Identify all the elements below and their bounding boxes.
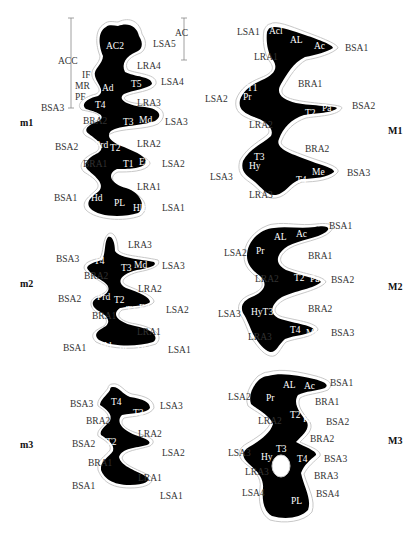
cusp-label: HyT3 — [251, 308, 273, 318]
cusp-label: T1 — [133, 451, 144, 461]
angle-label: BSA3 — [56, 255, 79, 265]
cusp-label: Prd — [95, 141, 108, 151]
tooth-label-M1: M1 — [388, 126, 402, 136]
angle-label: LRA3 — [128, 241, 152, 251]
cusp-label: T4 — [297, 455, 308, 465]
angle-label: LRA2 — [138, 285, 162, 295]
cusp-label: T2 — [106, 438, 117, 448]
cusp-label: AL — [283, 381, 296, 391]
cusp-label: T3 — [276, 445, 287, 455]
angle-label: BRA1 — [88, 459, 112, 469]
angle-label: LSA1 — [160, 492, 183, 502]
cusp-label: T3 — [133, 409, 144, 419]
cusp-label: Ad — [102, 84, 114, 94]
angle-label: LRA4 — [137, 62, 161, 72]
cusp-label: Hld — [137, 346, 151, 356]
angle-label: BSA2 — [326, 418, 349, 428]
angle-label: LRA1 — [137, 328, 161, 338]
angle-label: BSA3 — [324, 455, 347, 465]
cusp-label: T4 — [290, 326, 301, 336]
angle-label: LSA3 — [162, 262, 185, 272]
angle-label: BSA2 — [331, 276, 354, 286]
bracket-label-acc: ACC — [58, 57, 78, 67]
angle-label: BRA2 — [308, 305, 332, 315]
angle-label: LSA3 — [160, 402, 183, 412]
cusp-label: Hy — [249, 162, 261, 172]
angle-label: LSA2 — [162, 449, 185, 459]
molar-outlines — [0, 0, 420, 536]
cusp-label: Md — [139, 116, 152, 126]
cusp-label: Pr — [266, 394, 274, 404]
angle-label: BSA1 — [72, 482, 95, 492]
angle-label: MR — [75, 82, 90, 92]
cusp-label: AL — [274, 233, 287, 243]
cusp-label: Pa — [310, 275, 320, 285]
angle-label: BRA2 — [305, 145, 329, 155]
angle-label: LRA2 — [249, 121, 273, 131]
angle-label: IF — [82, 71, 90, 81]
cusp-label: Hd — [100, 342, 112, 352]
angle-label: LSA1 — [162, 204, 185, 214]
cusp-label: PL — [291, 497, 302, 507]
cusp-label: Ed — [139, 304, 150, 314]
cusp-label: Pa — [303, 415, 313, 425]
cusp-label: AC2 — [106, 42, 124, 52]
cusp-label: AL — [290, 36, 303, 46]
angle-label: BSA3 — [70, 400, 93, 410]
cusp-label: T4 — [296, 176, 307, 186]
angle-label: BRA1 — [308, 252, 332, 262]
cusp-label: Ac — [314, 42, 325, 52]
angle-label: LRA3 — [137, 99, 161, 109]
cusp-label: T2 — [290, 411, 301, 421]
angle-label: LSA2 — [224, 249, 247, 259]
angle-label: LRA3 — [248, 333, 272, 343]
angle-label: BSA2 — [55, 143, 78, 153]
angle-label: BRA2 — [83, 117, 107, 127]
angle-label: BSA1 — [63, 344, 86, 354]
cusp-label: T3 — [123, 118, 134, 128]
angle-label: BSA1 — [329, 222, 352, 232]
cusp-label: Ac — [304, 382, 315, 392]
cusp-label: Hld — [133, 204, 147, 214]
cusp-label: Md — [134, 261, 147, 271]
cusp-label: T4 — [95, 101, 106, 111]
cusp-label: PL — [114, 199, 125, 209]
cusp-label: Acl — [269, 27, 283, 37]
cusp-label: T5 — [131, 80, 142, 90]
cusp-label: Me — [312, 168, 325, 178]
angle-label: BSA2 — [352, 102, 375, 112]
angle-label: BSA1 — [330, 379, 353, 389]
angle-label: BRA1 — [298, 80, 322, 90]
angle-label: BSA3 — [41, 104, 64, 114]
cusp-label: Ed — [139, 158, 150, 168]
angle-label: LSA1 — [168, 346, 191, 356]
angle-label: LSA4 — [161, 78, 184, 88]
angle-label: LSA2 — [166, 306, 189, 316]
angle-label: LSA2 — [205, 95, 228, 105]
cusp-label: Hy — [261, 453, 273, 463]
angle-label: BSA1 — [345, 44, 368, 54]
cusp-label: T2 — [110, 144, 121, 154]
tooth-label-M2: M2 — [388, 282, 402, 292]
cusp-label: T4 — [94, 257, 105, 267]
angle-label: BRA1 — [92, 312, 116, 322]
angle-label: LSA4 — [242, 489, 265, 499]
angle-label: BRA2 — [310, 435, 334, 445]
angle-label: BSA1 — [54, 194, 77, 204]
M3-foramen — [272, 455, 290, 477]
angle-label: BSA2 — [72, 440, 95, 450]
cusp-label: T1 — [123, 160, 134, 170]
cusp-label: T4 — [111, 398, 122, 408]
angle-label: LSA5 — [153, 40, 176, 50]
angle-label: BRA3 — [314, 472, 338, 482]
angle-label: LSA1 — [237, 28, 260, 38]
cusp-label: Me — [306, 329, 319, 339]
cusp-label: T1 — [126, 306, 137, 316]
angle-label: LRA2 — [258, 417, 282, 427]
angle-label: LRA1 — [254, 53, 278, 63]
angle-label: BSA4 — [316, 490, 339, 500]
angle-label: LSA2 — [162, 160, 185, 170]
cusp-label: T2 — [114, 296, 125, 306]
cusp-label: T2 — [305, 109, 316, 119]
tooth-label-m3: m3 — [20, 440, 33, 450]
